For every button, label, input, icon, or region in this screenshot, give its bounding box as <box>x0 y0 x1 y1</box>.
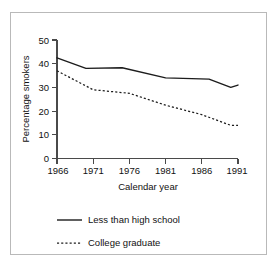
y-axis-tick-labels: 50 40 30 20 10 0 <box>38 35 49 165</box>
y-tick-label-40: 40 <box>38 58 49 69</box>
chart-legend: Less than high school College graduate <box>57 214 180 248</box>
legend-label-college-graduate: College graduate <box>88 237 160 248</box>
y-tick-label-30: 30 <box>38 82 49 93</box>
x-tick-label-1986: 1986 <box>191 165 212 176</box>
x-tick-label-1966: 1966 <box>47 165 68 176</box>
x-tick-label-1976: 1976 <box>119 165 140 176</box>
x-axis-title: Calendar year <box>118 181 178 192</box>
line-chart: 50 40 30 20 10 0 1966 1971 1976 1981 198… <box>0 0 277 274</box>
x-tick-label-1981: 1981 <box>155 165 176 176</box>
x-axis-ticks <box>57 159 238 164</box>
y-axis-title: Percentage smokers <box>20 55 31 142</box>
figure-canvas: 50 40 30 20 10 0 1966 1971 1976 1981 198… <box>0 0 277 274</box>
series-line-less-than-high-school <box>57 58 238 88</box>
y-tick-label-50: 50 <box>38 35 49 46</box>
x-tick-label-1991: 1991 <box>226 165 247 176</box>
y-tick-label-10: 10 <box>38 129 49 140</box>
y-tick-label-20: 20 <box>38 106 49 117</box>
y-tick-label-0: 0 <box>44 153 49 164</box>
series-line-college-graduate <box>57 71 238 126</box>
y-axis-ticks <box>52 40 57 159</box>
legend-label-less-than-high-school: Less than high school <box>88 214 180 225</box>
x-axis-tick-labels: 1966 1971 1976 1981 1986 1991 <box>47 165 247 176</box>
x-tick-label-1971: 1971 <box>83 165 104 176</box>
